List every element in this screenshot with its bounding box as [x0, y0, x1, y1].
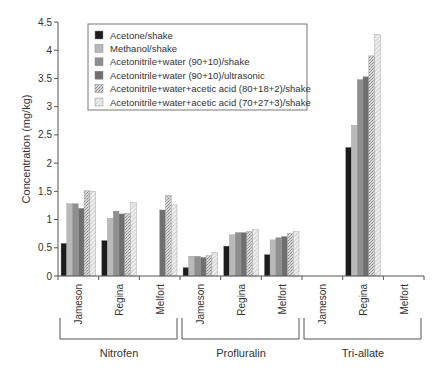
bar: [363, 77, 369, 276]
y-tick-label: 2.5: [38, 129, 52, 140]
bar: [235, 233, 241, 276]
legend-swatch: [95, 85, 103, 93]
bar: [189, 256, 195, 276]
x-category-label: Regina: [236, 284, 247, 316]
bar: [67, 204, 73, 276]
bar: [229, 235, 235, 276]
y-tick-label: 0.5: [38, 242, 52, 253]
bar: [206, 256, 212, 276]
legend-swatch: [95, 71, 103, 79]
bar: [351, 125, 357, 276]
x-category-label: Melfort: [399, 284, 410, 315]
bar: [113, 211, 119, 276]
y-tick-label: 2: [46, 158, 52, 169]
bar: [375, 34, 381, 276]
bar: [369, 56, 375, 276]
bar: [183, 268, 189, 276]
bar: [264, 255, 270, 276]
bar-chart: 00.511.522.533.544.5 JamesonReginaMelfor…: [0, 0, 439, 370]
bar: [293, 231, 299, 276]
x-axis: JamesonReginaMelfortNitrofenJamesonRegin…: [58, 276, 424, 359]
y-tick-label: 4: [46, 45, 52, 56]
y-axis: 00.511.522.533.544.5: [38, 17, 58, 282]
bar: [160, 210, 166, 276]
bar: [212, 252, 218, 276]
x-category-label: Jameson: [317, 284, 328, 325]
y-tick-label: 3.5: [38, 73, 52, 84]
bar: [195, 256, 201, 276]
bar: [61, 243, 67, 276]
legend-label: Acetonitrile+water (90+10)/shake: [110, 56, 249, 67]
bar: [241, 233, 247, 276]
x-category-label: Regina: [114, 284, 125, 316]
legend-label: Acetonitrile+water+acetic acid (70+27+3)…: [110, 97, 311, 108]
legend-swatch: [95, 58, 103, 66]
legend-label: Acetonitrile+water (90+10)/ultrasonic: [110, 70, 265, 81]
bar: [282, 236, 288, 276]
legend: Acetone/shakeMethanol/shakeAcetonitrile+…: [88, 24, 311, 110]
group-label: Tri-allate: [342, 347, 384, 359]
group-label: Profluralin: [216, 347, 266, 359]
legend-swatch: [95, 44, 103, 52]
y-tick-label: 3: [46, 101, 52, 112]
x-category-label: Regina: [358, 284, 369, 316]
bar: [125, 213, 131, 276]
x-category-label: Melfort: [155, 284, 166, 315]
bar: [171, 205, 177, 276]
bar: [119, 214, 125, 276]
bar: [253, 230, 259, 276]
y-tick-label: 1.5: [38, 186, 52, 197]
y-axis-title: Concentration (mg/kg): [20, 95, 32, 204]
legend-swatch: [95, 31, 103, 39]
legend-label: Acetone/shake: [110, 30, 173, 41]
bar: [247, 231, 253, 276]
bar: [84, 191, 90, 276]
bar: [200, 257, 206, 276]
legend-label: Methanol/shake: [110, 43, 177, 54]
bar: [102, 240, 108, 276]
bar: [357, 80, 363, 276]
group-label: Nitrofen: [100, 347, 139, 359]
bar: [276, 238, 282, 276]
bar: [270, 240, 276, 276]
bar: [73, 204, 79, 276]
legend-swatch: [95, 98, 103, 106]
bar: [78, 208, 84, 276]
bar: [90, 191, 96, 276]
y-tick-label: 0: [46, 271, 52, 282]
bar: [107, 218, 113, 276]
x-category-label: Jameson: [195, 284, 206, 325]
legend-label: Acetonitrile+water+acetic acid (80+18+2)…: [110, 83, 311, 94]
bar: [287, 233, 293, 276]
y-tick-label: 1: [46, 214, 52, 225]
bar: [165, 195, 171, 276]
x-category-label: Melfort: [277, 284, 288, 315]
bar: [131, 203, 137, 276]
x-category-label: Jameson: [73, 284, 84, 325]
y-tick-label: 4.5: [38, 17, 52, 28]
bar: [346, 147, 352, 276]
bar: [224, 246, 230, 276]
